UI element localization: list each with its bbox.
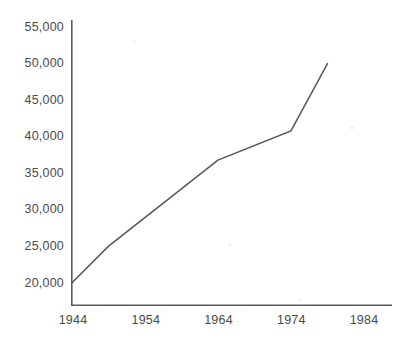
y-tick-label-35000: 35,000 (8, 167, 64, 180)
y-tick-label-45000: 45,000 (8, 94, 64, 107)
x-tick-label-1964: 1964 (189, 314, 249, 327)
x-tick-label-1984: 1984 (334, 314, 394, 327)
x-tick-label-1974: 1974 (261, 314, 321, 327)
y-tick-label-30000: 30,000 (8, 203, 64, 216)
scan-artifacts (133, 40, 354, 301)
y-tick-label-20000: 20,000 (8, 277, 64, 290)
y-tick-label-55000: 55,000 (8, 21, 64, 34)
y-tick-label-25000: 25,000 (8, 240, 64, 253)
y-tick-label-50000: 50,000 (8, 57, 64, 70)
series-line-path (72, 64, 328, 283)
line-chart: 55,000 50,000 45,000 40,000 35,000 30,00… (0, 0, 411, 343)
y-tick-label-40000: 40,000 (8, 130, 64, 143)
x-tick-label-1954: 1954 (116, 314, 176, 327)
x-tick-label-1944: 1944 (43, 314, 103, 327)
